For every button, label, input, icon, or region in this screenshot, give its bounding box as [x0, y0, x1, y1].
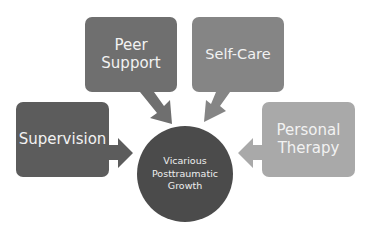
center-label-line: Vicarious — [163, 155, 206, 166]
arrow-supervision-to-center — [109, 138, 133, 168]
center-node-vicarious-posttraumatic-growth: Vicarious Posttraumatic Growth — [137, 126, 233, 222]
arrow-peer-to-center — [140, 92, 172, 124]
node-label-line: Supervision — [19, 131, 107, 149]
node-peer-support: Peer Support — [85, 17, 177, 92]
node-label-line: Self-Care — [205, 46, 270, 63]
node-self-care: Self-Care — [192, 17, 284, 92]
node-label-line: Support — [101, 55, 160, 73]
node-label-line: Therapy — [277, 140, 341, 158]
node-label-line: Personal — [277, 122, 341, 140]
center-label-line: Posttraumatic — [152, 168, 218, 179]
arrow-selfcare-to-center — [204, 92, 230, 122]
arrow-therapy-to-center — [238, 138, 262, 168]
node-label-line: Peer — [101, 37, 160, 55]
center-label-line: Growth — [168, 180, 202, 191]
node-personal-therapy: Personal Therapy — [262, 102, 355, 177]
node-supervision: Supervision — [16, 102, 109, 177]
